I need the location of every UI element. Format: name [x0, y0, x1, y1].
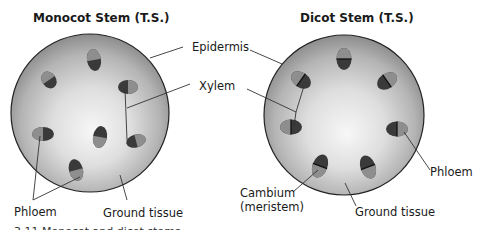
xylem-label: Xylem	[199, 79, 235, 93]
monocot-epidermis-leader	[150, 47, 183, 58]
stem-cross-section-diagram: Monocot Stem (T.S.)	[0, 0, 481, 230]
dicot-vascular-bundle	[337, 48, 352, 70]
monocot-ground-tissue-label: Ground tissue	[103, 206, 183, 220]
figure-caption: 3.11 Monocot and dicot stems	[14, 225, 181, 230]
monocot-vascular-bundle	[118, 80, 138, 94]
epidermis-label: Epidermis	[192, 40, 249, 54]
dicot-ground-tissue-label: Ground tissue	[355, 205, 435, 219]
dicot-title: Dicot Stem (T.S.)	[300, 11, 414, 25]
dicot-meristem-label: (meristem)	[240, 200, 304, 214]
dicot-stem: Dicot Stem (T.S.)	[240, 11, 473, 219]
monocot-phloem-label: Phloem	[14, 205, 57, 219]
monocot-stem: Monocot Stem (T.S.)	[11, 11, 190, 220]
dicot-epidermis-leader	[250, 50, 282, 64]
monocot-vascular-bundle	[32, 127, 54, 141]
monocot-title: Monocot Stem (T.S.)	[33, 11, 170, 25]
dicot-vascular-bundle	[280, 120, 302, 135]
dicot-phloem-label: Phloem	[430, 165, 473, 179]
dicot-cambium-label: Cambium	[240, 186, 295, 200]
dicot-vascular-bundle	[386, 122, 408, 137]
